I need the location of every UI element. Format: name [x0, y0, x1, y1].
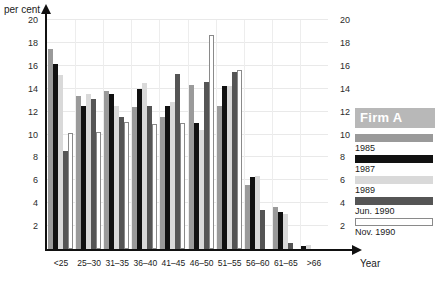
legend-item[interactable]: Jun. 1990 [355, 197, 435, 217]
bar-group [301, 20, 327, 249]
legend-item[interactable]: Nov. 1990 [355, 218, 435, 238]
bar-group [48, 20, 74, 249]
bar [288, 243, 293, 249]
y-tick-label-left: 18 [22, 38, 38, 48]
legend-items: 198519871989Jun. 1990Nov. 1990 [355, 134, 435, 238]
y-tick-label-left: 16 [22, 61, 38, 71]
bar-group [76, 20, 102, 249]
y-tick-label-right: 2 [340, 221, 356, 231]
y-tick-label-left: 10 [22, 130, 38, 140]
x-axis-line [45, 249, 353, 251]
bar [306, 245, 311, 249]
y-tick-label-right: 4 [340, 198, 356, 208]
legend-swatch [355, 176, 433, 184]
y-tick-label-right: 10 [340, 130, 356, 140]
bar [237, 70, 242, 249]
legend-label: Jun. 1990 [355, 205, 435, 217]
bar-group [217, 20, 243, 249]
legend-label: Nov. 1990 [355, 226, 435, 238]
bar [260, 210, 265, 250]
legend-item[interactable]: 1985 [355, 134, 435, 154]
y-axis-title: per cent [4, 4, 40, 15]
y-tick-label-right: 8 [340, 152, 356, 162]
legend-title: Firm A [355, 108, 435, 128]
y-axis-arrow [41, 4, 51, 14]
bar [68, 133, 73, 249]
legend-label: 1987 [355, 163, 435, 175]
y-tick-label-left: 14 [22, 84, 38, 94]
legend-swatch [355, 155, 433, 163]
y-tick-label-left: 2 [22, 221, 38, 231]
y-tick-label-right: 18 [340, 38, 356, 48]
legend-label: 1985 [355, 142, 435, 154]
x-tick-label: >66 [292, 258, 336, 268]
y-tick-label-right: 14 [340, 84, 356, 94]
y-tick-label-left: 20 [22, 15, 38, 25]
bar-group [245, 20, 271, 249]
legend-swatch [355, 218, 433, 226]
legend-swatch [355, 134, 433, 142]
legend-swatch [355, 197, 433, 205]
y-tick-label-left: 4 [22, 198, 38, 208]
y-tick-label-right: 16 [340, 61, 356, 71]
bar [152, 124, 157, 249]
bar [124, 122, 129, 249]
bar-group [160, 20, 186, 249]
bar-group [132, 20, 158, 249]
y-tick-label-left: 6 [22, 175, 38, 185]
legend: Firm A 198519871989Jun. 1990Nov. 1990 [355, 108, 435, 239]
plot-area [47, 20, 328, 249]
bar-group [273, 20, 299, 249]
legend-item[interactable]: 1987 [355, 155, 435, 175]
x-axis-arrow [352, 245, 362, 255]
y-tick-label-right: 20 [340, 15, 356, 25]
bar [96, 132, 101, 249]
y-tick-label-right: 6 [340, 175, 356, 185]
legend-item[interactable]: 1989 [355, 176, 435, 196]
legend-label: 1989 [355, 184, 435, 196]
x-axis-title: Year [360, 258, 380, 269]
y-tick-label-right: 12 [340, 107, 356, 117]
bar [180, 123, 185, 249]
bar [209, 35, 214, 249]
y-tick-label-left: 12 [22, 107, 38, 117]
bar-group [104, 20, 130, 249]
chart-container: per cent Year 2468101214161820 246810121… [0, 0, 438, 281]
right-axis-mask [329, 18, 330, 249]
bar-group [189, 20, 215, 249]
y-tick-label-left: 8 [22, 152, 38, 162]
